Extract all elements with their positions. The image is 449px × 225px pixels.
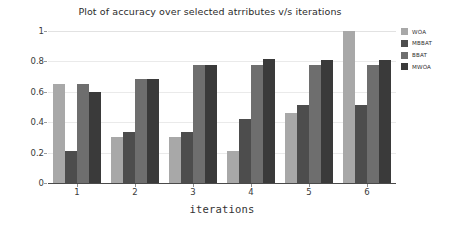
bar-mbbat-2 [123,132,135,183]
legend-swatch-icon [401,28,408,35]
legend-item-bbat[interactable]: BBAT [401,50,447,60]
bar-group [222,31,280,183]
bar-mwoa-1 [89,92,101,183]
x-tick-mark [251,184,252,187]
legend-label: BBAT [412,52,427,58]
bar-mbbat-5 [297,105,309,183]
y-axis-ticks: 00.20.40.60.81 [0,31,44,183]
x-tick-mark [309,184,310,187]
x-tick-label: 6 [347,187,387,197]
bar-bbat-2 [135,79,147,183]
plot-area [48,31,396,183]
x-tick-mark [193,184,194,187]
chart-title: Plot of accuracy over selected atrribute… [0,6,420,17]
x-tick-mark [367,184,368,187]
bar-group [48,31,106,183]
legend-item-mwoa[interactable]: MWOA [401,62,447,72]
legend-label: WOA [412,29,426,35]
y-tick-label: 0.8 [4,56,44,66]
bar-mbbat-1 [65,151,77,183]
bar-mbbat-4 [239,119,251,183]
y-tick-mark [44,31,47,32]
bar-bbat-3 [193,65,205,183]
bar-group [338,31,396,183]
y-tick-label: 0.2 [4,148,44,158]
y-tick-mark [44,153,47,154]
x-tick-mark [135,184,136,187]
x-tick-label: 4 [231,187,271,197]
bar-bbat-5 [309,65,321,183]
bar-mwoa-5 [321,60,333,183]
y-tick-mark [44,183,47,184]
x-tick-mark [77,184,78,187]
bar-bbat-6 [367,65,379,183]
legend-item-woa[interactable]: WOA [401,27,447,37]
y-tick-mark [44,92,47,93]
legend-swatch-icon [401,52,408,59]
bar-mbbat-3 [181,132,193,183]
bar-woa-5 [285,113,297,183]
bar-mwoa-4 [263,59,275,183]
legend-label: MBBAT [412,40,432,46]
y-tick-label: 1 [4,26,44,36]
bar-group [164,31,222,183]
x-tick-label: 1 [57,187,97,197]
x-tick-label: 3 [173,187,213,197]
bar-mbbat-6 [355,105,367,183]
x-tick-label: 5 [289,187,329,197]
x-axis-label: iterations [48,203,396,215]
bar-woa-1 [53,84,65,183]
bar-woa-6 [343,31,355,183]
bar-woa-4 [227,151,239,183]
chart-figure: Plot of accuracy over selected atrribute… [0,0,449,225]
y-tick-label: 0.4 [4,117,44,127]
bar-woa-3 [169,137,181,183]
legend-swatch-icon [401,40,408,47]
x-axis-line [48,183,396,184]
y-tick-label: 0.6 [4,87,44,97]
bar-mwoa-3 [205,65,217,183]
y-tick-label: 0 [4,178,44,188]
bar-mwoa-6 [379,60,391,183]
y-tick-mark [44,61,47,62]
legend-swatch-icon [401,63,408,70]
bar-mwoa-2 [147,79,159,183]
bar-bbat-4 [251,65,263,183]
x-tick-label: 2 [115,187,155,197]
bar-group [280,31,338,183]
bar-woa-2 [111,137,123,183]
bar-group [106,31,164,183]
chart-legend: WOAMBBATBBATMWOA [401,27,447,74]
legend-item-mbbat[interactable]: MBBAT [401,39,447,49]
y-tick-mark [44,122,47,123]
bar-bbat-1 [77,84,89,183]
legend-label: MWOA [412,64,431,70]
